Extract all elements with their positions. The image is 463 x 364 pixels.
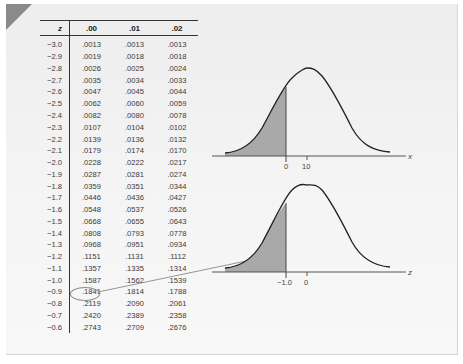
bottom-curve-line	[225, 184, 390, 268]
top-shaded-tail	[225, 87, 286, 156]
top-curve-line	[225, 68, 390, 153]
top-tick-10: 10	[302, 162, 310, 171]
bottom-axis-label: z	[407, 268, 412, 277]
top-normal-curve: x 0 10	[212, 68, 413, 171]
top-tick-0: 0	[284, 162, 288, 171]
bottom-tick-neg1: −1.0	[277, 278, 292, 287]
top-axis-label: x	[407, 152, 413, 161]
bottom-normal-curve: z −1.0 0	[212, 184, 412, 287]
bottom-tick-0: 0	[304, 278, 308, 287]
normal-curves-figure: x 0 10 z −1.0 0	[0, 0, 463, 364]
